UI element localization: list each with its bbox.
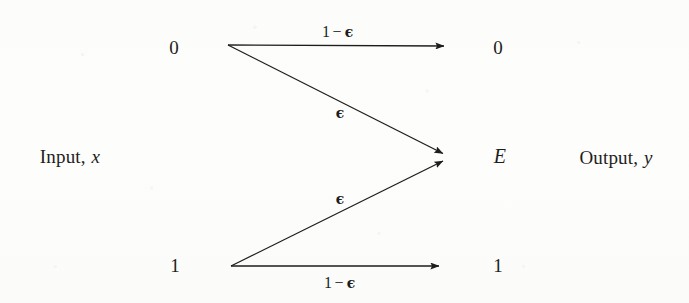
input-caption-text: Input, bbox=[40, 146, 86, 167]
edge-label-0-to-E-epsilon: ϵ bbox=[336, 105, 345, 121]
edge-label-1-to-1-prefix: 1 bbox=[324, 274, 332, 291]
input-node-0: 0 bbox=[169, 38, 179, 57]
output-caption-variable: y bbox=[643, 147, 653, 168]
edge-label-0-to-0: 1−ϵ bbox=[322, 24, 354, 40]
edge-label-0-to-E: ϵ bbox=[336, 105, 345, 121]
output-caption-text: Output, bbox=[579, 147, 638, 168]
input-caption-variable: x bbox=[91, 146, 101, 167]
edge-label-1-to-E: ϵ bbox=[336, 191, 345, 207]
output-node-1: 1 bbox=[493, 256, 503, 275]
edge-label-1-to-1-epsilon: ϵ bbox=[346, 275, 356, 291]
output-node-0: 0 bbox=[493, 38, 503, 57]
edge-label-0-to-0-prefix: 1 bbox=[322, 23, 330, 40]
edge-label-1-to-1-minus: − bbox=[332, 274, 346, 291]
input-node-1: 1 bbox=[170, 256, 180, 275]
output-node-erasure: E bbox=[494, 146, 506, 166]
edge-label-0-to-0-epsilon: ϵ bbox=[344, 24, 354, 40]
edge-label-1-to-1: 1−ϵ bbox=[324, 275, 356, 291]
input-caption: Input, x bbox=[40, 147, 100, 166]
edge-line-0-to-E bbox=[228, 45, 443, 154]
figure-canvas: 0 1 0 E 1 Input, x Output, y 1−ϵ ϵ ϵ 1−ϵ bbox=[0, 0, 689, 303]
output-caption: Output, y bbox=[579, 148, 652, 167]
edge-line-1-to-E bbox=[231, 161, 443, 266]
edge-label-0-to-0-minus: − bbox=[330, 23, 344, 40]
edge-label-1-to-E-epsilon: ϵ bbox=[336, 191, 345, 207]
edge-line-0-to-0 bbox=[228, 45, 444, 46]
